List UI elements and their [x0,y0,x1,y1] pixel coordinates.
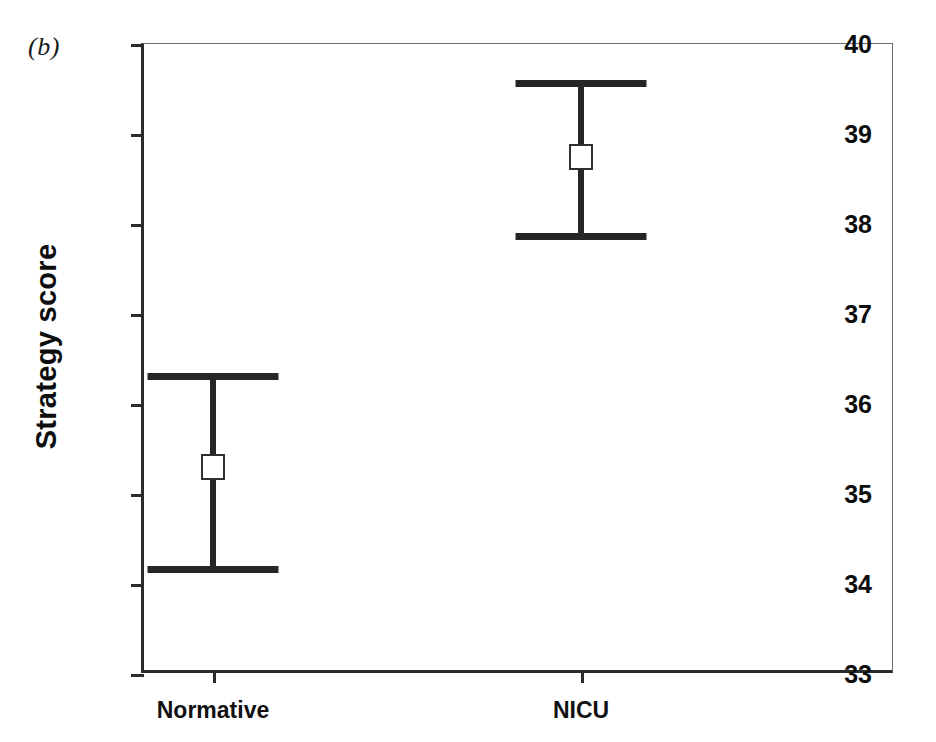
plot-area: 3334353637383940 NormativeNICU [141,43,893,673]
y-axis-tick [131,44,144,47]
y-axis-tick [131,134,144,137]
y-axis-tick-label: 35 [844,480,872,509]
y-axis-tick [131,674,144,677]
y-axis-tick [131,404,144,407]
error-bar-cap-lower [516,233,647,240]
figure-panel-b: (b) Strategy score 3334353637383940 Norm… [0,0,936,742]
y-axis-tick [131,314,144,317]
y-axis-tick [131,224,144,227]
error-bar-cap-upper [516,80,647,87]
x-axis-tick-label: NICU [553,697,609,724]
mean-marker [569,144,593,170]
x-axis-tick [581,670,584,683]
x-axis-tick-label: Normative [157,697,269,724]
y-axis-tick-label: 40 [844,30,872,59]
panel-label: (b) [28,32,60,62]
y-axis-tick-label: 36 [844,390,872,419]
y-axis-tick-label: 34 [844,570,872,599]
y-axis-tick-label: 37 [844,300,872,329]
error-bar-cap-upper [148,373,279,380]
y-axis-tick-label: 33 [844,660,872,689]
error-bar-cap-lower [148,566,279,573]
y-axis-tick [131,584,144,587]
mean-marker [201,454,225,480]
y-axis-tick [131,494,144,497]
x-axis-tick [213,670,216,683]
y-axis-title: Strategy score [30,197,63,497]
y-axis-tick-label: 38 [844,210,872,239]
y-axis-tick-label: 39 [844,120,872,149]
